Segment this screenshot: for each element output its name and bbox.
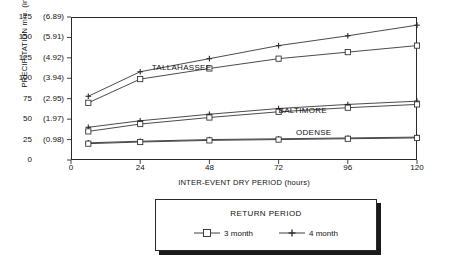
- y-tick-label: 75 (2.95): [6, 95, 64, 103]
- x-tick-label: 120: [397, 164, 437, 172]
- series-label-baltimore: BALTIMORE: [279, 106, 327, 115]
- x-tick-label: 96: [328, 164, 368, 172]
- legend-item-3-month[interactable]: 3 month: [194, 228, 253, 238]
- legend-label-3-month: 3 month: [224, 229, 253, 238]
- legend-label-4-month: 4 month: [309, 229, 338, 238]
- legend-entries: 3 month 4 month: [156, 228, 376, 238]
- series-label-odense: ODENSE: [296, 128, 332, 137]
- y-tick-label: 125 (4.92): [6, 54, 64, 62]
- x-axis-title: INTER-EVENT DRY PERIOD (hours): [71, 178, 417, 187]
- x-tick-label: 0: [51, 164, 91, 172]
- x-tick-label: 72: [259, 164, 299, 172]
- series-label-tallahassee: TALLAHASSEE: [152, 63, 212, 72]
- open-square-marker-icon: [194, 228, 220, 238]
- y-tick-label: 150 (5.91): [6, 33, 64, 41]
- chart-figure: PRECIPITATION mm. (in.) 025 (0.98)50 (1.…: [0, 0, 450, 263]
- y-tick-label: 100 (3.94): [6, 74, 64, 82]
- y-tick-label: 0: [6, 156, 64, 164]
- legend-box: RETURN PERIOD 3 month 4 month: [155, 199, 377, 251]
- legend-title: RETURN PERIOD: [156, 209, 376, 218]
- x-tick-label: 48: [189, 164, 229, 172]
- y-tick-label: 50 (1.97): [6, 115, 64, 123]
- x-tick-label: 24: [120, 164, 160, 172]
- plot-area: [71, 17, 417, 160]
- y-tick-label: 175 (6.89): [6, 13, 64, 21]
- legend-item-4-month[interactable]: 4 month: [279, 228, 338, 238]
- plus-marker-icon: [279, 228, 305, 238]
- y-tick-label: 25 (0.98): [6, 136, 64, 144]
